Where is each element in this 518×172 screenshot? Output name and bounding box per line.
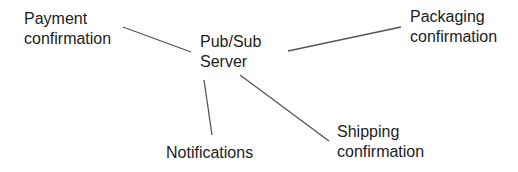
node-label-line: Pub/Sub — [200, 32, 261, 52]
node-label-line: confirmation — [337, 142, 424, 162]
node-label-line: Server — [200, 52, 261, 72]
edge-payment-to-hub — [123, 27, 191, 52]
node-packaging-confirmation: Packaging confirmation — [410, 7, 497, 47]
edge-hub-to-notifications — [204, 80, 212, 135]
node-payment-confirmation: Payment confirmation — [24, 9, 111, 49]
node-label-line: Payment — [24, 9, 111, 29]
node-pubsub-server: Pub/Sub Server — [200, 32, 261, 72]
node-notifications: Notifications — [166, 143, 253, 163]
node-label-line: Shipping — [337, 122, 424, 142]
node-label-line: Packaging — [410, 7, 497, 27]
edge-hub-to-shipping — [240, 75, 329, 141]
node-shipping-confirmation: Shipping confirmation — [337, 122, 424, 162]
node-label-line: confirmation — [410, 27, 497, 47]
node-label-line: Notifications — [166, 143, 253, 163]
node-label-line: confirmation — [24, 29, 111, 49]
pubsub-diagram: Pub/Sub Server Payment confirmation Pack… — [0, 0, 518, 172]
edge-hub-to-packaging — [288, 27, 401, 51]
